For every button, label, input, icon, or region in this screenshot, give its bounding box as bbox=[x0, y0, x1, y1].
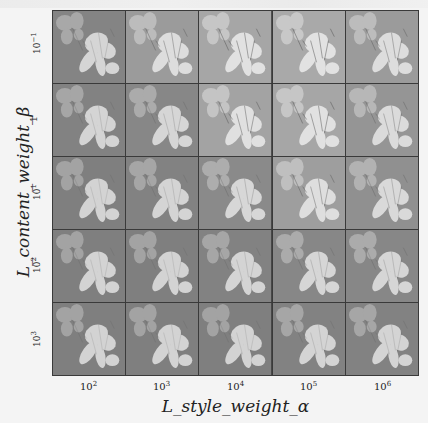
flower-image bbox=[53, 303, 125, 375]
image-grid bbox=[52, 10, 419, 376]
flower-image bbox=[199, 11, 271, 83]
grid-cell-r5-c3 bbox=[199, 303, 271, 375]
flower-image bbox=[199, 157, 271, 229]
x-tick-label-3: 104 bbox=[199, 380, 272, 392]
y-tick-label-5: 103 bbox=[27, 333, 51, 347]
x-tick-label-2: 103 bbox=[125, 380, 198, 392]
x-axis-title: L_style_weight_α bbox=[52, 396, 419, 416]
grid-cell-r4-c5 bbox=[346, 230, 418, 302]
grid-cell-r1-c3 bbox=[199, 11, 271, 83]
grid-cell-r5-c4 bbox=[273, 303, 345, 375]
flower-image bbox=[53, 11, 125, 83]
x-tick-label-5: 106 bbox=[346, 380, 419, 392]
flower-image bbox=[346, 84, 418, 156]
page-bleed-through bbox=[0, 0, 428, 8]
flower-image bbox=[126, 230, 198, 302]
flower-image bbox=[346, 303, 418, 375]
flower-image bbox=[53, 157, 125, 229]
grid-cell-r1-c5 bbox=[346, 11, 418, 83]
grid-cell-r5-c2 bbox=[126, 303, 198, 375]
grid-cell-r2-c2 bbox=[126, 84, 198, 156]
grid-cell-r5-c1 bbox=[53, 303, 125, 375]
grid-cell-r3-c1 bbox=[53, 157, 125, 229]
grid-cell-r4-c2 bbox=[126, 230, 198, 302]
x-tick-label-4: 105 bbox=[272, 380, 345, 392]
flower-image bbox=[273, 157, 345, 229]
flower-image bbox=[273, 303, 345, 375]
x-tick-label-1: 102 bbox=[52, 380, 125, 392]
flower-image bbox=[126, 157, 198, 229]
grid-cell-r4-c1 bbox=[53, 230, 125, 302]
flower-image bbox=[273, 84, 345, 156]
grid-cell-r1-c2 bbox=[126, 11, 198, 83]
flower-image bbox=[126, 303, 198, 375]
flower-image bbox=[346, 157, 418, 229]
flower-image bbox=[273, 230, 345, 302]
grid-cell-r1-c1 bbox=[53, 11, 125, 83]
grid-cell-r4-c4 bbox=[273, 230, 345, 302]
grid-cell-r3-c3 bbox=[199, 157, 271, 229]
flower-image bbox=[346, 230, 418, 302]
flower-image bbox=[273, 11, 345, 83]
grid-cell-r2-c5 bbox=[346, 84, 418, 156]
grid-cell-r2-c4 bbox=[273, 84, 345, 156]
grid-cell-r5-c5 bbox=[346, 303, 418, 375]
grid-cell-r3-c2 bbox=[126, 157, 198, 229]
y-axis-title: L_content_weight_β bbox=[13, 97, 33, 287]
flower-image bbox=[53, 230, 125, 302]
grid-cell-r2-c3 bbox=[199, 84, 271, 156]
flower-image bbox=[346, 11, 418, 83]
y-tick-label-1: 10−1 bbox=[27, 40, 51, 54]
flower-image bbox=[126, 84, 198, 156]
grid-cell-r2-c1 bbox=[53, 84, 125, 156]
flower-image bbox=[199, 84, 271, 156]
grid-cell-r1-c4 bbox=[273, 11, 345, 83]
grid-cell-r3-c4 bbox=[273, 157, 345, 229]
grid-cell-r3-c5 bbox=[346, 157, 418, 229]
grid-cell-r4-c3 bbox=[199, 230, 271, 302]
flower-image bbox=[199, 303, 271, 375]
flower-image bbox=[126, 11, 198, 83]
flower-image bbox=[53, 84, 125, 156]
flower-image bbox=[199, 230, 271, 302]
